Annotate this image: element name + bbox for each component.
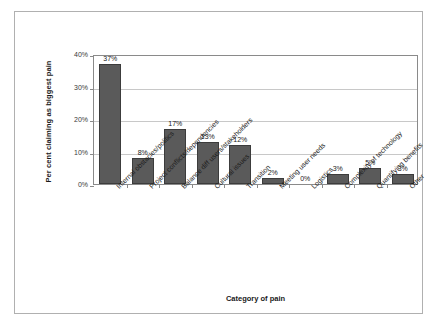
- y-axis-tick-label: 10%: [62, 149, 88, 156]
- x-axis-category-label: Internal obstacles/politics: [115, 185, 120, 190]
- bar-group: 2%: [257, 56, 290, 184]
- x-axis-category-label: Logistics: [310, 185, 315, 190]
- x-axis-category-labels: Internal obstacles/politicsProject confl…: [93, 185, 418, 285]
- bar-group: 37%: [94, 56, 127, 184]
- x-axis-category-label: Other: [408, 185, 413, 190]
- x-axis-category-label: Project conflicts/dependencies: [148, 185, 153, 190]
- x-axis-category-label: Meeting user needs: [278, 185, 283, 190]
- x-axis-category-label: Balance diff users/stakeholders: [180, 185, 185, 190]
- bar-value-label: 37%: [103, 55, 117, 62]
- x-axis-category-label: Quantifying benefits: [375, 185, 380, 190]
- y-axis-title: Per cent claiming as biggest pain: [44, 54, 53, 190]
- y-axis-tick-labels: 0%10%20%30%40%: [60, 0, 88, 331]
- y-axis-tick-label: 40%: [62, 51, 88, 58]
- bar: [99, 64, 121, 184]
- y-axis-tick-label: 30%: [62, 84, 88, 91]
- x-axis-category-label: Cultural issues: [213, 185, 218, 190]
- bar-chart: Per cent claiming as biggest pain 0%10%2…: [0, 0, 440, 331]
- x-axis-category-label: Transition: [245, 185, 250, 190]
- bar-group: 3%: [322, 56, 355, 184]
- bar-value-label: 17%: [168, 120, 182, 127]
- x-axis-category-label: Complexity of technology: [343, 185, 348, 190]
- bar-value-label: 3%: [333, 165, 343, 172]
- y-axis-tick-label: 20%: [62, 116, 88, 123]
- y-axis-tick-label: 0%: [62, 181, 88, 188]
- bar-value-label: 0%: [300, 175, 310, 182]
- x-axis-title: Category of pain: [93, 294, 418, 303]
